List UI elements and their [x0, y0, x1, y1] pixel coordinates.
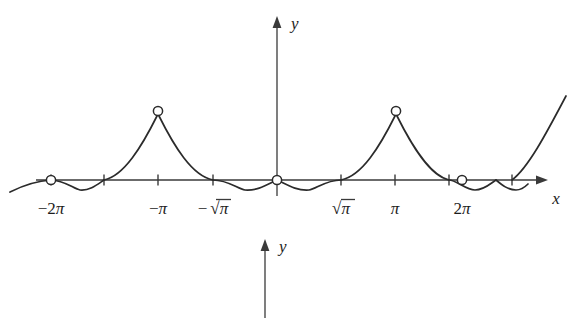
curve-lobe-to-2pi: [449, 180, 496, 190]
curve-lobe-neg-sqrtpi: [213, 180, 277, 190]
open-circle-origin: [272, 175, 281, 184]
curve-rise-to-neg-pi: [104, 116, 157, 180]
curve-lobe-neg2pi: [51, 180, 104, 190]
y-axis-label: y: [289, 14, 299, 33]
svg-text:√π: √π: [332, 199, 350, 218]
tick-label--sqrt-pi: −√π: [198, 199, 231, 218]
open-circle-peak-pi: [391, 106, 400, 115]
tick-label--2pi: −2π: [38, 199, 65, 218]
curve-fall-from-pi: [397, 116, 449, 180]
function-curve-group: [10, 96, 566, 192]
second-panel-y-axis-label: y: [277, 237, 287, 256]
tick-label--pi: −π: [149, 199, 168, 218]
open-point-markers: [46, 106, 466, 184]
open-circle-neg2pi: [46, 175, 55, 184]
tick-label-sqrt-pi: √π: [332, 199, 355, 218]
curve-left-tail: [10, 180, 51, 192]
x-axis-label: x: [551, 189, 560, 208]
y-axis-arrow-icon: [273, 16, 282, 28]
y-axis-group: [273, 16, 282, 196]
second-panel-y-axis-arrow-icon: [261, 239, 270, 251]
tick-label-group: −2π −π −√π √π π: [38, 199, 471, 218]
curve-rise-to-pi: [341, 116, 395, 180]
tick-label-pi: π: [391, 199, 400, 218]
curve-fall-from-neg-pi: [159, 116, 213, 180]
graph-canvas: x y −2π −π −√π √π: [0, 0, 573, 318]
svg-text:−√π: −√π: [198, 199, 229, 218]
curve-right-tail: [512, 96, 566, 180]
x-axis-arrow-icon: [536, 176, 548, 185]
tick-label-2pi: 2π: [453, 199, 471, 218]
math-figure: x y −2π −π −√π √π: [0, 0, 573, 318]
second-panel-y-axis-group: y: [261, 237, 287, 318]
curve-lobe-pos-sqrtpi: [277, 180, 341, 190]
open-circle-2pi: [457, 175, 466, 184]
open-circle-peak-neg-pi: [153, 106, 162, 115]
